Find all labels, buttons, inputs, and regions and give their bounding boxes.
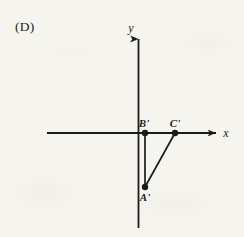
y-axis-label: y bbox=[127, 21, 134, 35]
coordinate-plane: x y A' B' C' bbox=[0, 0, 244, 237]
point-label-a-prime: A' bbox=[139, 191, 150, 203]
point-label-c-prime: C' bbox=[170, 117, 180, 129]
point-b-prime bbox=[142, 130, 148, 136]
point-a-prime bbox=[142, 184, 148, 190]
segment-a-prime-c-prime bbox=[145, 133, 175, 187]
x-axis-label: x bbox=[222, 126, 229, 140]
point-label-b-prime: B' bbox=[138, 117, 149, 129]
point-c-prime bbox=[172, 130, 178, 136]
figure-root: (D) x y A' B' C' bbox=[0, 0, 244, 237]
